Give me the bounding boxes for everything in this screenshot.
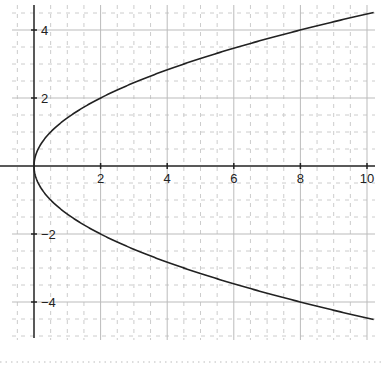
parabola-chart: 246810−4−224 <box>0 0 381 367</box>
minor-grid <box>12 5 375 340</box>
y-tick-label: −4 <box>41 295 56 310</box>
x-tick-label: 10 <box>360 171 374 186</box>
x-tick-label: 6 <box>230 171 237 186</box>
x-tick-label: 2 <box>97 171 104 186</box>
y-tick-label: −2 <box>41 227 56 242</box>
major-grid <box>12 5 375 340</box>
y-tick-label: 4 <box>41 23 48 38</box>
x-tick-label: 8 <box>297 171 304 186</box>
y-tick-label: 2 <box>41 91 48 106</box>
x-tick-label: 4 <box>164 171 171 186</box>
axes <box>0 5 375 338</box>
